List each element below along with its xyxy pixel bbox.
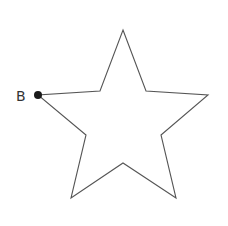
point-b-label: B	[16, 88, 26, 104]
point-b-marker	[34, 91, 42, 99]
star-outline	[38, 30, 208, 198]
star-diagram: B	[0, 0, 228, 226]
